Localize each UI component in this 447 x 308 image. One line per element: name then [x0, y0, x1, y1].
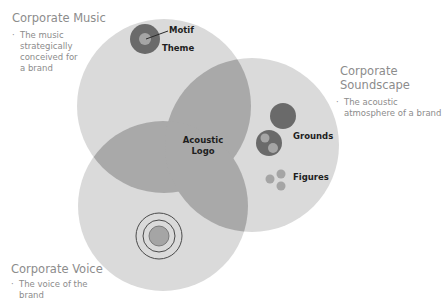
soundscape-title-line: Corporate: [340, 64, 410, 78]
voice-description-line: The voice of the: [19, 279, 99, 290]
theme-label: Theme: [162, 43, 194, 54]
voice-description: The voice of the brand: [11, 279, 99, 301]
acoustic-logo-line: Acoustic: [178, 135, 228, 146]
soundscape-description-line: The acoustic: [344, 97, 447, 108]
music-description-line: conceived for: [20, 52, 100, 63]
soundscape-title-line: Soundscape: [340, 78, 410, 92]
music-description-line: The music: [20, 30, 100, 41]
venn-diagram: Corporate Music The music strategically …: [0, 0, 447, 308]
soundscape-title: Corporate Soundscape: [340, 64, 410, 92]
soundscape-description-line: atmosphere of a brand: [344, 108, 447, 119]
voice-description-line: brand: [19, 290, 99, 301]
music-description-line: strategically: [20, 41, 100, 52]
grounds-label: Grounds: [293, 131, 333, 142]
music-title: Corporate Music: [12, 11, 106, 25]
voice-rings-icon: [136, 213, 182, 259]
soundscape-description: The acoustic atmosphere of a brand: [336, 97, 447, 119]
motif-label: Motif: [169, 25, 194, 36]
acoustic-logo-line: Logo: [178, 146, 228, 157]
voice-title: Corporate Voice: [11, 262, 103, 276]
music-description-line: a brand: [20, 63, 100, 74]
figures-label: Figures: [293, 172, 329, 183]
acoustic-logo-label: Acoustic Logo: [178, 135, 228, 157]
music-description: The music strategically conceived for a …: [12, 30, 100, 74]
